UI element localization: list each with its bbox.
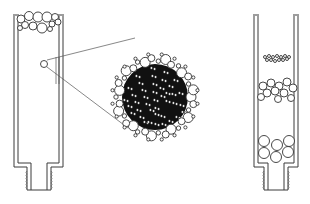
particle: [283, 147, 294, 158]
particle: [150, 67, 153, 70]
particle: [147, 138, 150, 141]
particle: [146, 97, 149, 100]
particle: [181, 93, 184, 96]
particle: [282, 59, 285, 62]
particle: [151, 75, 154, 78]
particle: [259, 148, 270, 159]
particle: [181, 111, 184, 114]
particle: [289, 84, 297, 92]
highlighted-particle: [41, 61, 48, 68]
particle: [173, 79, 176, 82]
particle: [153, 99, 156, 102]
particle: [264, 56, 267, 59]
particle: [165, 100, 168, 103]
particle: [122, 76, 126, 80]
particle: [123, 99, 126, 102]
particle: [42, 12, 52, 22]
particle: [154, 107, 157, 110]
particle: [154, 113, 157, 116]
particle: [171, 121, 174, 124]
particle: [152, 91, 155, 94]
large-particle-band: [259, 136, 295, 163]
particle: [270, 59, 273, 62]
particle: [142, 128, 149, 135]
particle: [145, 103, 148, 106]
column-diagram: [0, 0, 310, 204]
particle: [160, 53, 163, 56]
particle: [111, 89, 114, 92]
particle: [147, 53, 150, 56]
particle: [48, 27, 53, 32]
particle: [127, 105, 130, 108]
particle: [154, 123, 157, 126]
particle: [160, 138, 163, 141]
particle: [182, 105, 185, 108]
particle: [55, 19, 61, 25]
particle: [144, 90, 147, 93]
particle: [111, 102, 114, 105]
particle: [178, 118, 185, 125]
particle: [157, 108, 160, 111]
particle: [196, 102, 199, 105]
particle: [168, 120, 171, 123]
particle: [271, 87, 279, 95]
particle: [171, 86, 174, 89]
particle: [175, 116, 178, 119]
particle: [149, 109, 152, 112]
particle: [271, 152, 282, 163]
particle: [130, 112, 133, 115]
particle: [192, 115, 195, 118]
particle: [126, 100, 129, 103]
particle: [168, 101, 171, 104]
particle: [127, 87, 130, 90]
particle: [196, 89, 199, 92]
particle: [154, 76, 157, 79]
particle: [130, 88, 133, 91]
particle: [175, 103, 178, 106]
small-particle-band: [264, 55, 291, 63]
particle: [114, 95, 118, 99]
particle: [165, 92, 168, 95]
particle: [25, 12, 34, 21]
particle: [157, 114, 160, 117]
particle: [266, 59, 269, 62]
particle: [156, 59, 160, 63]
particle: [184, 65, 187, 68]
particle: [148, 104, 151, 107]
particle: [156, 131, 160, 135]
particle: [18, 26, 23, 31]
right-column: [253, 15, 299, 190]
particle: [283, 78, 291, 86]
particle: [171, 93, 174, 96]
particle: [123, 126, 126, 129]
particle: [161, 123, 164, 126]
particle: [176, 64, 180, 68]
particle: [141, 89, 144, 92]
particle: [173, 57, 176, 60]
particle: [37, 23, 47, 33]
particle: [164, 124, 167, 127]
particle: [141, 83, 144, 86]
particle: [150, 122, 153, 125]
particle: [147, 121, 150, 124]
particle: [176, 80, 179, 83]
particle: [184, 126, 187, 129]
particle: [280, 89, 288, 97]
particle: [284, 55, 287, 58]
particle: [173, 134, 176, 137]
particle: [152, 110, 155, 113]
particle: [134, 95, 137, 98]
particle: [134, 134, 137, 137]
particle: [155, 92, 158, 95]
particle: [137, 102, 140, 105]
particle: [179, 104, 182, 107]
callout-line: [47, 38, 135, 60]
particle: [33, 12, 43, 22]
particle: [163, 71, 166, 74]
particle: [272, 56, 275, 59]
particle: [155, 84, 158, 87]
particle: [161, 79, 164, 82]
particle: [258, 94, 265, 101]
particle: [114, 106, 124, 116]
particle: [284, 136, 295, 147]
